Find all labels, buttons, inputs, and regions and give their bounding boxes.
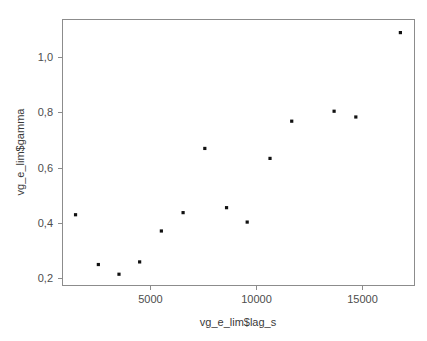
data-point [268, 157, 271, 160]
y-tick-label-1.0: 1,0 [38, 51, 53, 63]
data-point [354, 115, 357, 118]
data-point [290, 120, 293, 123]
y-tick-label-0.6: 0,6 [38, 162, 53, 174]
plot-canvas: 0,2 0,4 0,6 0,8 1,0 5000 10000 15000 vg_… [0, 0, 427, 341]
scatter-plot-figure: 0,2 0,4 0,6 0,8 1,0 5000 10000 15000 vg_… [0, 0, 427, 341]
x-axis-title: vg_e_lim$lag_s [200, 316, 277, 328]
x-tick-label-10000: 10000 [241, 293, 272, 305]
x-tick-label-5000: 5000 [138, 293, 162, 305]
data-point [225, 206, 228, 209]
data-point [138, 260, 141, 263]
data-point [399, 31, 402, 34]
data-point [333, 110, 336, 113]
data-point [74, 213, 77, 216]
y-axis-title: vg_e_lim$gamma [14, 108, 26, 196]
data-point [97, 263, 100, 266]
x-tick-label-15000: 15000 [347, 293, 378, 305]
data-point [117, 273, 120, 276]
y-tick-label-0.2: 0,2 [38, 272, 53, 284]
data-point [160, 229, 163, 232]
data-point [181, 211, 184, 214]
y-tick-label-0.8: 0,8 [38, 106, 53, 118]
data-point [246, 220, 249, 223]
y-tick-label-0.4: 0,4 [38, 217, 53, 229]
data-point [203, 147, 206, 150]
